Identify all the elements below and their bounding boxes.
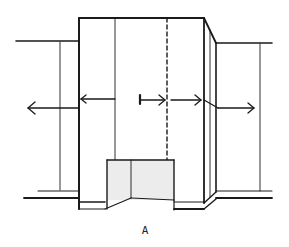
figure-label: A	[142, 224, 149, 237]
arrows	[28, 95, 254, 114]
arrow-left-outward-icon	[28, 102, 79, 114]
arrow-right-outward-icon	[204, 100, 254, 113]
arrow-to-right-edge-icon	[171, 95, 201, 105]
arrow-into-left-edge-icon	[81, 95, 115, 103]
left-side-wall	[16, 41, 79, 198]
elevation-sketch	[0, 0, 289, 247]
right-side-wall	[216, 43, 272, 198]
arrow-from-marker-right-icon	[140, 95, 165, 105]
ground-level-opening	[105, 160, 174, 209]
